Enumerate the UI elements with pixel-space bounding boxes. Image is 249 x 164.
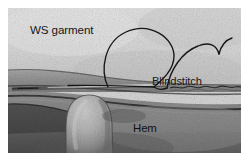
figure-root: WS garment Blindstitch Hem	[0, 0, 249, 164]
photograph-frame: WS garment Blindstitch Hem	[8, 8, 241, 153]
label-ws-garment: WS garment	[30, 23, 94, 36]
photograph-canvas: WS garment Blindstitch Hem	[8, 8, 241, 153]
thumb-cast-shadow	[102, 109, 146, 123]
label-blindstitch: Blindstitch	[152, 75, 202, 87]
label-hem: Hem	[133, 122, 157, 134]
